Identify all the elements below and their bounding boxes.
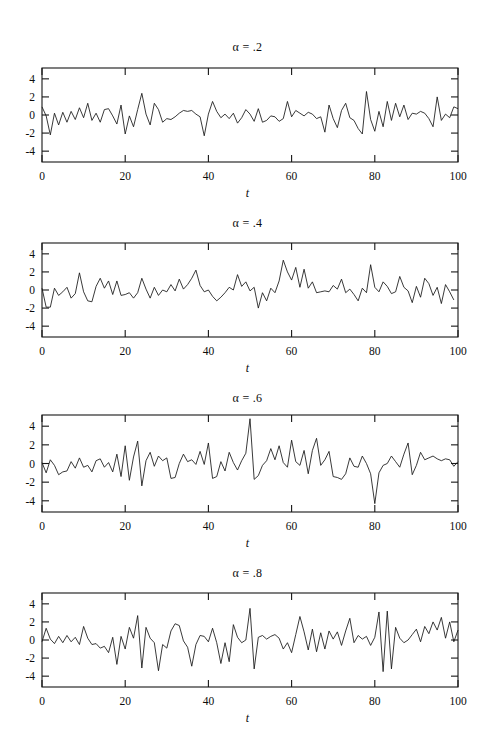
series-line	[42, 92, 458, 136]
x-tick-label: 80	[369, 170, 381, 182]
y-tick-label: 0	[29, 458, 35, 470]
y-tick-label: 0	[29, 109, 35, 121]
y-tick-label: 4	[29, 598, 35, 610]
y-tick-label: -2	[25, 302, 35, 314]
panel-title: α = .2	[0, 40, 495, 54]
x-tick-label: 20	[119, 695, 131, 707]
y-tick-label: -2	[25, 652, 35, 664]
x-tick-label: 80	[369, 520, 381, 532]
x-tick-label: 100	[449, 695, 467, 707]
plot-frame	[42, 68, 458, 162]
y-tick-label: 2	[29, 439, 35, 451]
plot-frame	[42, 415, 458, 512]
plot-wrapper: -4-2024020406080100	[0, 401, 495, 538]
y-tick-label: 2	[29, 616, 35, 628]
x-tick-label: 0	[39, 520, 45, 532]
x-axis-label: t	[0, 361, 495, 376]
x-axis-label: t	[0, 536, 495, 551]
plot-wrapper: -4-2024020406080100	[0, 579, 495, 713]
x-tick-label: 60	[286, 520, 298, 532]
x-tick-label: 20	[119, 520, 131, 532]
x-tick-label: 0	[39, 170, 45, 182]
x-tick-label: 20	[119, 170, 131, 182]
plot-wrapper: -4-2024020406080100	[0, 54, 495, 188]
x-tick-label: 40	[203, 345, 215, 357]
x-tick-label: 40	[203, 695, 215, 707]
x-axis-label: t	[0, 711, 495, 726]
y-tick-label: -4	[25, 495, 35, 507]
plot-area: -4-2024020406080100	[0, 401, 495, 538]
x-tick-label: 40	[203, 520, 215, 532]
x-tick-label: 100	[449, 170, 467, 182]
plot-area: -4-2024020406080100	[0, 579, 495, 713]
plot-area: -4-2024020406080100	[0, 229, 495, 363]
x-tick-label: 100	[449, 520, 467, 532]
y-tick-label: -4	[25, 670, 35, 682]
x-tick-label: 0	[39, 345, 45, 357]
series-line	[42, 419, 458, 504]
plot-frame	[42, 593, 458, 687]
y-tick-label: -4	[25, 320, 35, 332]
x-tick-label: 60	[286, 345, 298, 357]
y-tick-label: 2	[29, 266, 35, 278]
x-tick-label: 100	[449, 345, 467, 357]
x-axis-label: t	[0, 186, 495, 201]
figure-panel-grid: α = .2-4-2024020406080100tα = .4-4-20240…	[0, 0, 495, 744]
series-line	[42, 608, 458, 671]
y-tick-label: -2	[25, 127, 35, 139]
panel-title: α = .4	[0, 216, 495, 230]
panel-title: α = .8	[0, 566, 495, 580]
y-tick-label: 0	[29, 284, 35, 296]
x-tick-label: 80	[369, 695, 381, 707]
series-line	[42, 260, 454, 308]
x-tick-label: 20	[119, 345, 131, 357]
x-tick-label: 0	[39, 695, 45, 707]
plot-area: -4-2024020406080100	[0, 54, 495, 188]
x-tick-label: 60	[286, 170, 298, 182]
y-tick-label: -2	[25, 476, 35, 488]
y-tick-label: 4	[29, 420, 35, 432]
y-tick-label: 4	[29, 248, 35, 260]
y-tick-label: 2	[29, 91, 35, 103]
x-tick-label: 80	[369, 345, 381, 357]
y-tick-label: 4	[29, 73, 35, 85]
y-tick-label: -4	[25, 145, 35, 157]
x-tick-label: 40	[203, 170, 215, 182]
y-tick-label: 0	[29, 634, 35, 646]
x-tick-label: 60	[286, 695, 298, 707]
plot-wrapper: -4-2024020406080100	[0, 229, 495, 363]
